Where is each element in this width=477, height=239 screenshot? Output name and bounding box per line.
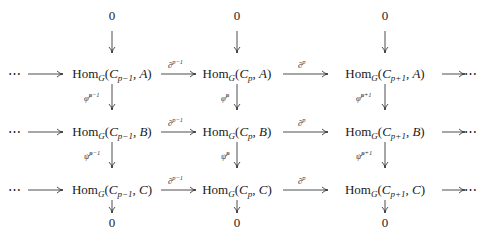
node-hom-cp-B: HomG(Cp, B) (203, 124, 272, 141)
node-hom-cp-C: HomG(Cp, C) (202, 182, 272, 199)
label-boundary-C-2: ∂p (298, 174, 305, 186)
label-phi-col1: φ̃p−1 (84, 91, 100, 103)
node-hom-cpm1-A: HomG(Cp−1, A) (72, 66, 151, 83)
label-boundary-A-1: ∂p−1 (168, 58, 183, 70)
zero-bottom-col3: 0 (382, 215, 389, 231)
node-hom-cpp1-C: HomG(Cp+1, C) (345, 182, 425, 199)
ellipsis-right-B: ⋯ (464, 124, 477, 140)
node-hom-cp-A: HomG(Cp, A) (203, 66, 272, 83)
label-psi-col2: ψ̃p (221, 149, 230, 161)
zero-top-col3: 0 (382, 8, 389, 24)
node-hom-cpm1-C: HomG(Cp−1, C) (72, 182, 152, 199)
label-psi-col3: ψ̃p+1 (356, 149, 372, 161)
label-phi-col3: φ̃p+1 (356, 91, 372, 103)
zero-top-col1: 0 (109, 8, 116, 24)
label-phi-col2: φ̃p (221, 91, 229, 103)
label-psi-col1: ψ̃p−1 (84, 149, 100, 161)
node-hom-cpm1-B: HomG(Cp−1, B) (72, 124, 151, 141)
node-hom-cpp1-B: HomG(Cp+1, B) (345, 124, 424, 141)
ellipsis-right-C: ⋯ (464, 182, 477, 198)
node-hom-cpp1-A: HomG(Cp+1, A) (345, 66, 424, 83)
label-boundary-B-2: ∂p (298, 116, 305, 128)
ellipsis-left-A: ⋯ (8, 66, 21, 82)
label-boundary-A-2: ∂p (298, 58, 305, 70)
ellipsis-right-A: ⋯ (464, 66, 477, 82)
ellipsis-left-B: ⋯ (8, 124, 21, 140)
zero-bottom-col1: 0 (109, 215, 116, 231)
label-boundary-B-1: ∂p−1 (168, 116, 183, 128)
zero-top-col2: 0 (234, 8, 241, 24)
label-boundary-C-1: ∂p−1 (168, 174, 183, 186)
ellipsis-left-C: ⋯ (8, 182, 21, 198)
zero-bottom-col2: 0 (234, 215, 241, 231)
